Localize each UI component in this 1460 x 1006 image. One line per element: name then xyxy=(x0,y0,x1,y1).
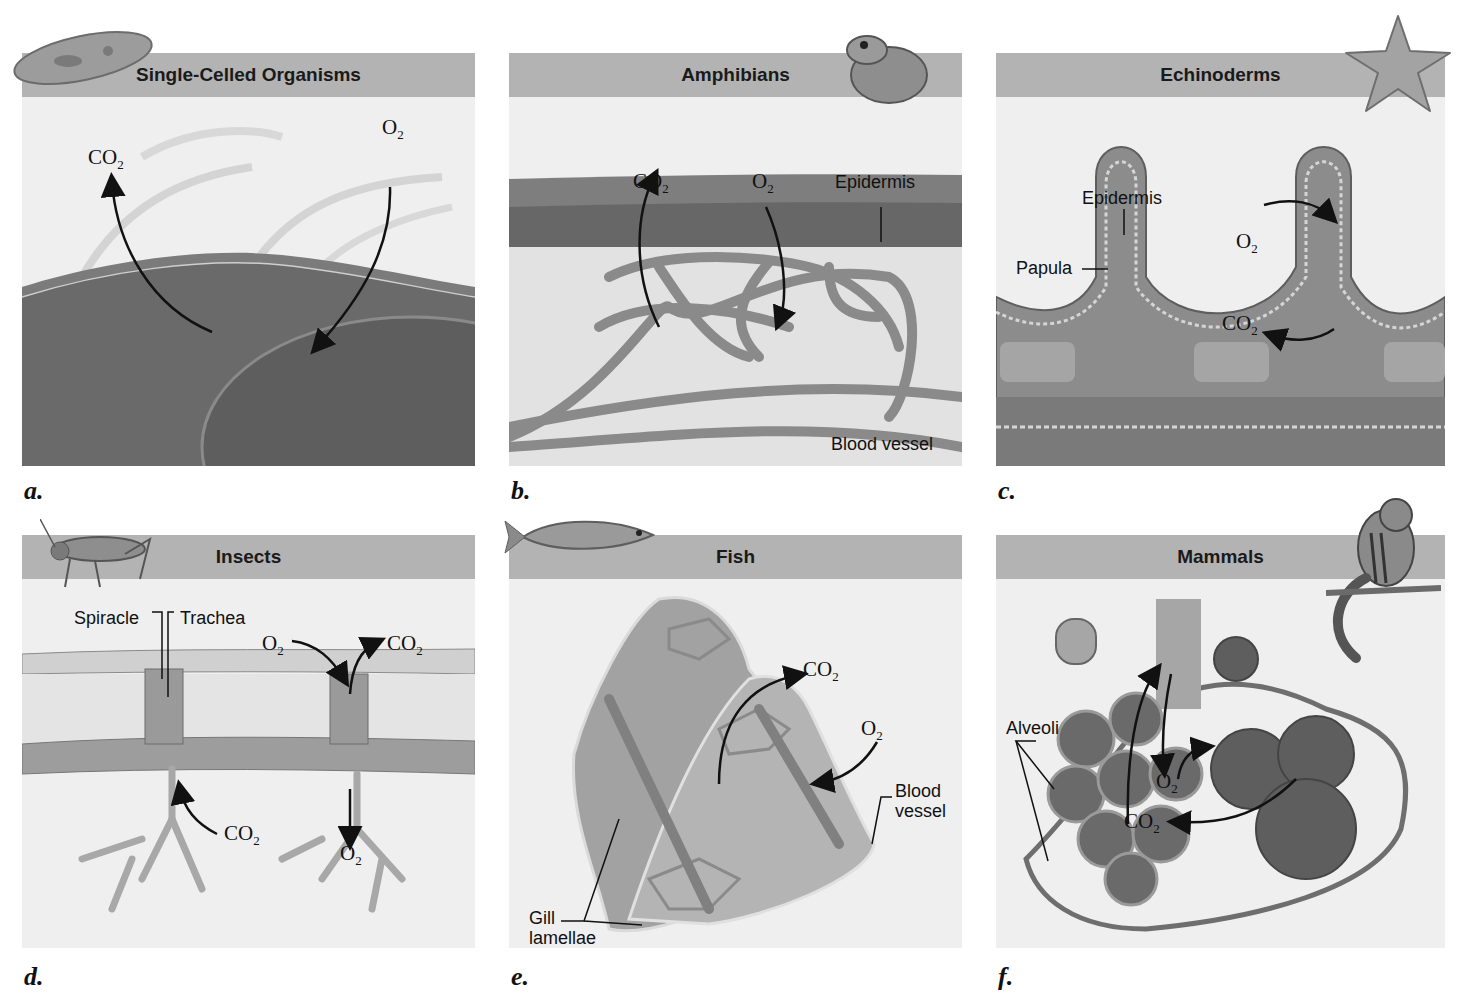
chipmunk-icon xyxy=(1326,493,1441,663)
fish-icon xyxy=(503,509,663,564)
co2-label: CO2 xyxy=(803,657,839,685)
panel-letter: a. xyxy=(24,476,44,506)
co2-label: CO2 xyxy=(633,169,669,197)
grasshopper-icon xyxy=(40,519,160,594)
panel-illustration: Spiracle Trachea O2 CO2 CO2 O2 xyxy=(22,579,475,948)
o2-label: O2 xyxy=(861,716,883,744)
blood-vessel-label: Blood vessel xyxy=(831,435,933,455)
panel-letter: d. xyxy=(24,962,44,992)
panel-echinoderms: Echinoderms Epidermis Papula O2 CO2 xyxy=(996,53,1445,466)
panel-title: Amphibians xyxy=(681,64,790,86)
gill-lamellae-label: Gilllamellae xyxy=(529,909,596,948)
panel-single-celled: Single-Celled Organisms CO2 O2 xyxy=(22,53,475,466)
panel-illustration: CO2 O2 Epidermis Blood vessel xyxy=(509,97,962,466)
frog-icon xyxy=(839,25,939,110)
gill-lamellae-illustration xyxy=(509,579,962,948)
panel-illustration: Epidermis Papula O2 CO2 xyxy=(996,97,1445,466)
paramecium-icon xyxy=(8,23,158,93)
o2-label: O2 xyxy=(382,115,404,143)
alveoli-label: Alveoli xyxy=(1006,719,1059,739)
panel-illustration: CO2 O2 xyxy=(22,97,475,466)
co2-label: CO2 xyxy=(1124,809,1160,837)
epidermis-label: Epidermis xyxy=(835,173,915,193)
panel-illustration: CO2 O2 Bloodvessel Gilllamellae xyxy=(509,579,962,948)
papula-illustration xyxy=(996,97,1445,466)
o2-label: O2 xyxy=(340,841,362,869)
starfish-icon xyxy=(1338,11,1458,121)
blood-vessel-label: Bloodvessel xyxy=(895,782,946,822)
o2-label: O2 xyxy=(1156,769,1178,797)
papula-label: Papula xyxy=(1016,259,1072,279)
trachea-label: Trachea xyxy=(180,609,245,629)
panel-title: Fish xyxy=(716,546,755,568)
epidermis-label: Epidermis xyxy=(1082,189,1162,209)
panel-letter: b. xyxy=(511,476,531,506)
panel-title: Insects xyxy=(216,546,281,568)
co2-label: CO2 xyxy=(387,631,423,659)
panel-amphibians: Amphibians CO2 O2 Epidermis B xyxy=(509,53,962,466)
panel-insects: Insects Spiracle Trachea O2 CO2 C xyxy=(22,535,475,948)
o2-label: O2 xyxy=(1236,229,1258,257)
o2-label: O2 xyxy=(752,169,774,197)
panel-letter: e. xyxy=(511,962,529,992)
skin-capillary-illustration xyxy=(509,97,962,466)
panel-letter: f. xyxy=(998,962,1013,992)
co2-label: CO2 xyxy=(224,821,260,849)
spiracle-label: Spiracle xyxy=(74,609,139,629)
panel-title: Single-Celled Organisms xyxy=(136,64,361,86)
panel-title: Echinoderms xyxy=(1160,64,1280,86)
co2-label: CO2 xyxy=(1222,311,1258,339)
panel-fish: Fish CO2 O2 Bloodvessel Gilllamellae xyxy=(509,535,962,948)
co2-label: CO2 xyxy=(88,145,124,173)
panel-mammals: Mammals Alveoli O2 CO2 xyxy=(996,535,1445,948)
panel-letter: c. xyxy=(998,476,1016,506)
o2-label: O2 xyxy=(262,631,284,659)
panel-title: Mammals xyxy=(1177,546,1264,568)
